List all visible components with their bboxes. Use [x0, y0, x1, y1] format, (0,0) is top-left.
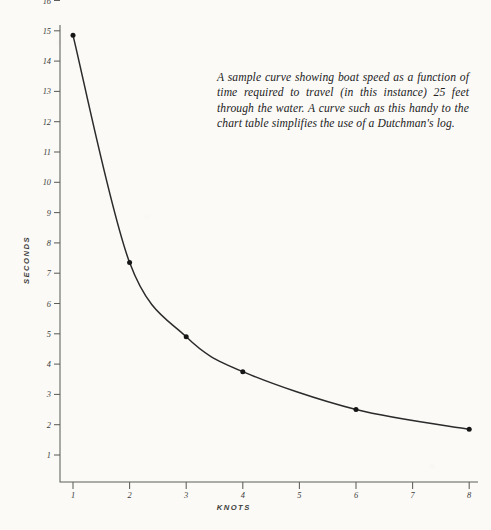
x-axis-tick-label: 2	[128, 491, 132, 500]
data-point-marker	[467, 427, 472, 432]
y-axis-tick-label: 5	[47, 330, 51, 339]
x-axis-tick-label: 7	[411, 491, 416, 500]
x-axis-tick-label: 6	[354, 491, 359, 500]
y-axis-tick-label: 11	[43, 148, 51, 157]
y-axis-tick-label: 9	[47, 209, 52, 218]
y-axis-tick-label: 2	[47, 421, 51, 430]
data-point-marker	[127, 260, 132, 265]
data-point-marker	[184, 334, 189, 339]
x-axis-tick-label: 1	[71, 491, 75, 500]
chart-caption: A sample curve showing boat speed as a f…	[217, 70, 469, 132]
y-axis-tick-label: 15	[43, 27, 51, 36]
y-axis-tick-label: 7	[47, 269, 52, 278]
y-axis-tick-label: 16	[43, 0, 52, 6]
chart-figure: 1234567891011121314151612345678KNOTSSECO…	[0, 0, 491, 530]
y-axis-tick-label: 12	[43, 118, 51, 127]
x-axis-tick-label: 4	[241, 491, 245, 500]
x-axis-tick-label: 3	[183, 491, 188, 500]
y-axis-tick-label: 4	[47, 360, 51, 369]
x-axis-title: KNOTS	[217, 503, 251, 512]
y-axis-tick-label: 8	[47, 239, 52, 248]
y-axis-tick-label: 13	[43, 87, 51, 96]
y-axis-tick-label: 6	[47, 300, 52, 309]
data-point-marker	[71, 33, 76, 38]
y-axis-tick-label: 3	[46, 390, 51, 399]
x-axis-tick-label: 5	[297, 491, 301, 500]
data-point-marker	[240, 369, 245, 374]
y-axis-tick-label: 14	[43, 57, 51, 66]
y-axis-tick-label: 10	[43, 178, 52, 187]
y-axis-tick-label: 1	[47, 451, 51, 460]
data-point-marker	[354, 407, 359, 412]
x-axis-tick-label: 8	[467, 491, 472, 500]
y-axis-title: SECONDS	[22, 236, 31, 284]
